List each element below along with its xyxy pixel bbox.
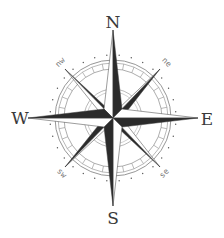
- ring-divider: [67, 145, 72, 148]
- tick-dot: [94, 57, 95, 58]
- ring-divider: [123, 64, 124, 70]
- point-n-light: [104, 30, 113, 118]
- tick-dot: [142, 62, 143, 63]
- ring-divider: [123, 166, 124, 172]
- ring-divider: [154, 145, 159, 148]
- tick-dot: [118, 55, 119, 56]
- ring-divider: [154, 87, 159, 90]
- ring-divider: [59, 128, 65, 129]
- tick-dot: [161, 157, 162, 158]
- tick-dot: [118, 180, 119, 181]
- ring-divider: [92, 67, 94, 73]
- tick-dot: [83, 62, 84, 63]
- tick-dot: [57, 88, 58, 89]
- tick-dot: [50, 123, 51, 124]
- tick-dot: [161, 77, 162, 78]
- compass-rose: N S W E nw ne sw se: [0, 0, 224, 238]
- tick-dot: [83, 173, 84, 174]
- label-southwest: sw: [55, 167, 68, 180]
- label-south: S: [107, 208, 119, 228]
- tick-dot: [175, 111, 176, 112]
- ring-divider: [140, 159, 143, 164]
- tick-dot: [106, 55, 107, 56]
- tick-dot: [168, 147, 169, 148]
- ring-divider: [82, 72, 85, 77]
- ring-divider: [59, 107, 65, 108]
- ring-divider: [161, 128, 167, 129]
- point-w-dark: [28, 109, 113, 118]
- point-n-dark: [113, 30, 122, 118]
- cardinal-points: [28, 30, 198, 206]
- label-northeast: ne: [160, 56, 173, 69]
- tick-dot: [131, 57, 132, 58]
- ring-divider: [102, 166, 103, 172]
- ring-divider: [132, 163, 134, 169]
- point-s-dark: [104, 118, 113, 206]
- point-s-light: [113, 118, 122, 206]
- tick-dot: [173, 136, 174, 137]
- tick-dot: [152, 166, 153, 167]
- ring-divider: [102, 64, 103, 70]
- ring-divider: [67, 87, 72, 90]
- label-north: N: [106, 12, 121, 32]
- tick-dot: [64, 157, 65, 158]
- ring-divider: [158, 97, 164, 99]
- tick-dot: [168, 88, 169, 89]
- tick-dot: [57, 147, 58, 148]
- tick-dot: [106, 180, 107, 181]
- point-w-light: [28, 118, 113, 127]
- ring-divider: [82, 159, 85, 164]
- tick-dot: [52, 99, 53, 100]
- tick-dot: [72, 166, 73, 167]
- ring-divider: [161, 107, 167, 108]
- ring-divider: [92, 163, 94, 169]
- tick-dot: [52, 136, 53, 137]
- tick-dot: [50, 111, 51, 112]
- ring-divider: [132, 67, 134, 73]
- point-e-light: [113, 109, 198, 118]
- tick-dot: [94, 178, 95, 179]
- tick-dot: [175, 123, 176, 124]
- ring-divider: [62, 137, 68, 139]
- tick-dot: [64, 77, 65, 78]
- tick-dot: [152, 69, 153, 70]
- point-e-dark: [113, 118, 198, 127]
- label-southeast: se: [158, 167, 171, 180]
- ring-divider: [158, 137, 164, 139]
- tick-dot: [72, 69, 73, 70]
- ring-divider: [140, 72, 143, 77]
- tick-dot: [173, 99, 174, 100]
- label-northwest: nw: [54, 56, 67, 69]
- tick-dot: [131, 178, 132, 179]
- label-west: W: [11, 108, 29, 128]
- ring-divider: [62, 97, 68, 99]
- label-east: E: [201, 109, 213, 129]
- tick-dot: [142, 173, 143, 174]
